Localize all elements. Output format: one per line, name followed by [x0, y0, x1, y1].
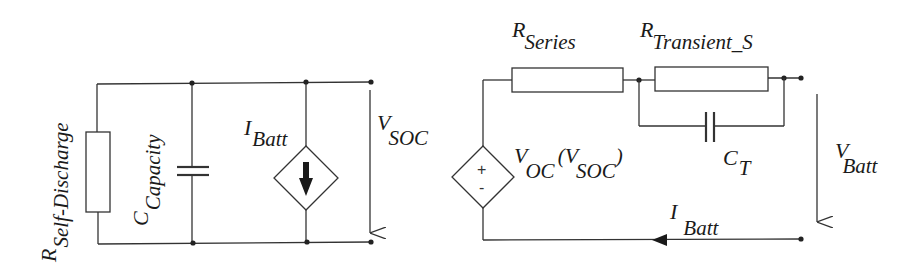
node-dot: [304, 239, 309, 244]
terminal-dot: [798, 236, 803, 241]
series-resistor-icon: [512, 68, 623, 92]
left-circuit: RSelf-Discharge CCapacity IBatt: [36, 79, 429, 263]
c-capacity-label: CCapacity: [128, 134, 165, 226]
terminal-dot: [798, 75, 803, 80]
controlled-current-source: [274, 79, 338, 244]
right-circuit: + - VOC(VSOC) RSeries RTransient_S CT: [452, 17, 879, 246]
node-dot: [190, 240, 195, 245]
v-soc-label: VSOC: [377, 110, 429, 150]
r-transient-s-label: RTransient_S: [639, 17, 753, 54]
r-series-label: RSeries: [511, 17, 576, 54]
v-batt-label: VBatt: [835, 138, 879, 178]
minus-sign: -: [479, 179, 484, 196]
i-batt-current-label: IBatt: [669, 199, 719, 240]
v-oc-source-label: VOC(VSOC): [514, 143, 623, 183]
bottom-rail-wire: [98, 242, 371, 244]
terminal-dot: [368, 239, 373, 244]
transient-resistor-icon: [655, 67, 768, 91]
bottom-return-wire: [483, 239, 801, 240]
r-self-discharge-label: RSelf-Discharge: [36, 122, 73, 263]
node-dot: [303, 79, 308, 84]
battery-equivalent-circuit-diagram: RSelf-Discharge CCapacity IBatt: [0, 0, 919, 272]
left-current-arrow-icon: [652, 234, 667, 246]
top-rail-wire: [97, 82, 371, 84]
i-batt-source-label: IBatt: [243, 115, 288, 151]
plus-sign: +: [477, 161, 486, 178]
resistor-icon: [86, 132, 110, 212]
capacity-capacitor: [177, 80, 209, 245]
terminal-dot: [368, 79, 373, 84]
node-dot: [189, 80, 194, 85]
c-t-label: CT: [723, 145, 752, 180]
self-discharge-resistor: [86, 84, 110, 244]
